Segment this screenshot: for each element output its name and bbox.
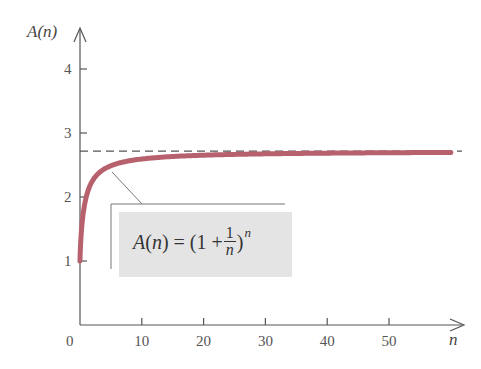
formula-box: A(n) = (1 + 1 n ) n	[119, 212, 292, 277]
formula-lhs: A(n) = (1 +	[133, 231, 223, 254]
origin-label: 0	[66, 333, 74, 349]
formula: A(n) = (1 + 1 n ) n	[133, 226, 251, 259]
y-tick-label: 3	[64, 125, 72, 141]
x-tick-label: 10	[134, 333, 149, 349]
leader-line	[112, 172, 142, 204]
fraction-denominator: n	[226, 242, 234, 258]
formula-rhs: )	[237, 231, 244, 254]
y-ticks: 1234	[64, 61, 87, 269]
x-tick-label: 20	[196, 333, 211, 349]
y-tick-label: 1	[64, 253, 72, 269]
x-axis	[80, 319, 464, 331]
y-tick-label: 4	[64, 61, 72, 77]
y-tick-label: 2	[64, 189, 72, 205]
x-axis-label: n	[449, 330, 458, 349]
formula-exponent: n	[244, 225, 251, 241]
fraction-numerator: 1	[224, 225, 236, 242]
x-ticks: 1020304050	[134, 318, 396, 349]
x-tick-label: 40	[320, 333, 335, 349]
y-axis-label: A(n)	[26, 22, 58, 41]
chart-canvas: 1234 1020304050 A(n) n 0	[0, 0, 481, 369]
y-axis	[74, 28, 86, 325]
x-tick-label: 50	[382, 333, 397, 349]
x-tick-label: 30	[258, 333, 273, 349]
fraction: 1 n	[224, 225, 236, 258]
